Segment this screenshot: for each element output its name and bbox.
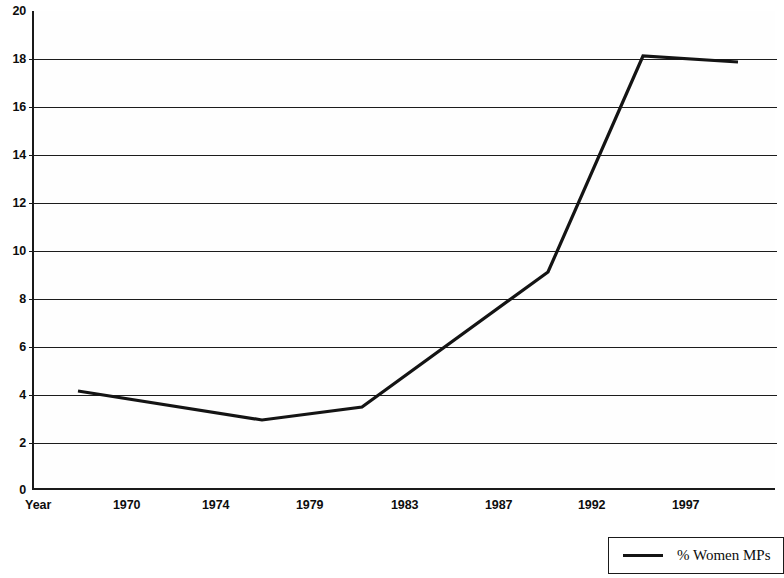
ytick-label-4: 4 bbox=[2, 388, 26, 402]
ytick-mark-16 bbox=[29, 107, 34, 108]
x-axis-title: Year bbox=[25, 498, 51, 512]
gridline-8 bbox=[34, 299, 777, 300]
gridline-10 bbox=[34, 251, 777, 252]
legend-label-women-mps: % Women MPs bbox=[677, 547, 771, 564]
ytick-label-0: 0 bbox=[2, 483, 26, 497]
gridline-4 bbox=[34, 395, 777, 396]
ytick-mark-6 bbox=[29, 347, 34, 348]
gridline-14 bbox=[34, 155, 777, 156]
ytick-label-8: 8 bbox=[2, 292, 26, 306]
xtick-label-1970: 1970 bbox=[113, 498, 140, 512]
xtick-label-1974: 1974 bbox=[202, 498, 229, 512]
xtick-label-1979: 1979 bbox=[296, 498, 323, 512]
ytick-label-6: 6 bbox=[2, 340, 26, 354]
ytick-mark-12 bbox=[29, 203, 34, 204]
gridline-18 bbox=[34, 59, 777, 60]
gridline-2 bbox=[34, 443, 777, 444]
xtick-label-1983: 1983 bbox=[391, 498, 418, 512]
xtick-label-1997: 1997 bbox=[672, 498, 699, 512]
gridline-12 bbox=[34, 203, 777, 204]
ytick-label-20: 20 bbox=[2, 4, 26, 18]
ytick-label-16: 16 bbox=[2, 100, 26, 114]
ytick-label-14: 14 bbox=[2, 148, 26, 162]
gridline-16 bbox=[34, 107, 777, 108]
ytick-label-18: 18 bbox=[2, 52, 26, 66]
ytick-mark-2 bbox=[29, 443, 34, 444]
gridline-6 bbox=[34, 347, 777, 348]
ytick-mark-14 bbox=[29, 155, 34, 156]
ytick-label-2: 2 bbox=[2, 436, 26, 450]
ytick-mark-4 bbox=[29, 395, 34, 396]
chart-container: . . . . . . . . . . . . 20 18 16 14 12 1… bbox=[0, 0, 784, 578]
legend-line-swatch-icon bbox=[623, 554, 663, 557]
x-axis-labels: Year 1970 1974 1979 1983 1987 1992 1997 bbox=[0, 498, 784, 520]
ytick-mark-18 bbox=[29, 59, 34, 60]
plot-area bbox=[32, 11, 775, 490]
ytick-label-12: 12 bbox=[2, 196, 26, 210]
ytick-label-10: 10 bbox=[2, 244, 26, 258]
xtick-label-1992: 1992 bbox=[578, 498, 605, 512]
chart-legend: % Women MPs bbox=[608, 537, 784, 574]
ytick-mark-10 bbox=[29, 251, 34, 252]
xtick-label-1987: 1987 bbox=[485, 498, 512, 512]
ytick-mark-8 bbox=[29, 299, 34, 300]
